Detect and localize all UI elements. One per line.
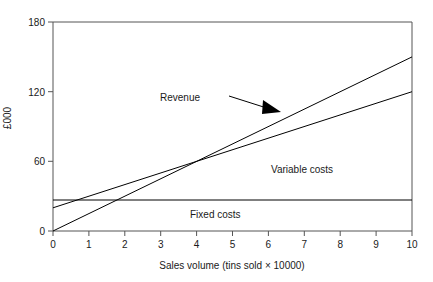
x-tick-label-8: 8: [337, 239, 343, 250]
x-tick-label-1: 1: [86, 239, 92, 250]
x-tick-label-9: 9: [373, 239, 379, 250]
chart-plot-area: [0, 0, 433, 282]
x-tick-label-7: 7: [302, 239, 308, 250]
x-tick-label-10: 10: [406, 239, 417, 250]
x-tick-label-6: 6: [266, 239, 272, 250]
series-line-variable-costs: [53, 92, 412, 208]
x-tick-label-2: 2: [122, 239, 128, 250]
series-line-revenue: [53, 57, 412, 231]
series-label-revenue: Revenue: [160, 92, 200, 103]
x-axis-title: Sales volume (tins sold × 10000): [159, 260, 304, 271]
y-axis-ticks: [48, 22, 53, 231]
x-axis-ticks: [53, 231, 412, 236]
y-tick-label-60: 60: [20, 156, 45, 167]
y-axis-title: £000: [2, 107, 13, 129]
y-tick-label-180: 180: [20, 17, 45, 28]
series-label-fixed-costs: Fixed costs: [190, 209, 241, 220]
y-tick-label-0: 0: [20, 226, 45, 237]
series-label-variable-costs: Variable costs: [271, 164, 333, 175]
x-tick-label-3: 3: [158, 239, 164, 250]
x-tick-label-0: 0: [50, 239, 56, 250]
break-even-chart-figure: 180 120 60 0 0 1 2 3 4 5 6 7 8 9 10 £000…: [0, 0, 433, 282]
y-tick-label-120: 120: [20, 87, 45, 98]
revenue-annotation-arrow: [229, 96, 281, 114]
x-tick-label-5: 5: [230, 239, 236, 250]
x-tick-label-4: 4: [194, 239, 200, 250]
